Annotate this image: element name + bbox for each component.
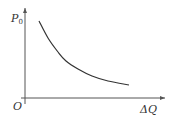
x-axis-label: ΔQ [139,103,157,116]
y-axis-label: P0 [10,12,23,26]
chart: P0 O ΔQ [0,0,172,122]
origin-label: O [13,100,22,113]
curve [39,21,129,85]
